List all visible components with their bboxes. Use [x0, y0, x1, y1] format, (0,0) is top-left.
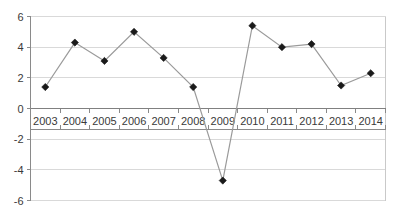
data-point-2009[interactable]: 2009: -4.7	[219, 177, 226, 184]
x-tick-label-2013: 2013	[329, 115, 353, 127]
markers-group: 2003: 1.42004: 4.32005: 3.12006: 52007: …	[42, 22, 375, 184]
x-tick-label-2004: 2004	[63, 115, 87, 127]
data-point-2014[interactable]: 2014: 2.3	[367, 70, 374, 77]
y-tick-labels-group: 6420-2-4-6	[14, 11, 24, 207]
x-tick-label-2009: 2009	[211, 115, 235, 127]
data-point-2003[interactable]: 2003: 1.4	[42, 83, 49, 90]
x-tick-labels-group: 2003200420052006200720082009201020112012…	[33, 115, 383, 127]
x-tick-label-2007: 2007	[151, 115, 175, 127]
x-tick-label-2005: 2005	[92, 115, 116, 127]
chart-canvas: 6420-2-4-6200320042005200620072008200920…	[0, 0, 397, 212]
y-tick-label-6: 6	[17, 11, 23, 23]
y-tick-label--6: -6	[14, 195, 24, 207]
x-tick-label-2011: 2011	[270, 115, 294, 127]
y-tick-label--4: -4	[14, 164, 24, 176]
axes-group	[27, 17, 386, 201]
series-line-series-1	[45, 26, 370, 181]
line-chart: 6420-2-4-6200320042005200620072008200920…	[0, 0, 397, 212]
y-tick-label-0: 0	[17, 103, 23, 115]
x-tick-label-2008: 2008	[181, 115, 205, 127]
y-tick-label-2: 2	[17, 72, 23, 84]
data-point-2004[interactable]: 2004: 4.3	[71, 39, 78, 46]
y-tick-label--2: -2	[14, 133, 24, 145]
x-tick-label-2003: 2003	[33, 115, 57, 127]
y-tick-label-4: 4	[17, 41, 23, 53]
x-tick-label-2006: 2006	[122, 115, 146, 127]
x-tick-label-2010: 2010	[240, 115, 264, 127]
x-tick-label-2012: 2012	[299, 115, 323, 127]
x-tick-label-2014: 2014	[358, 115, 382, 127]
series-group	[45, 26, 370, 181]
